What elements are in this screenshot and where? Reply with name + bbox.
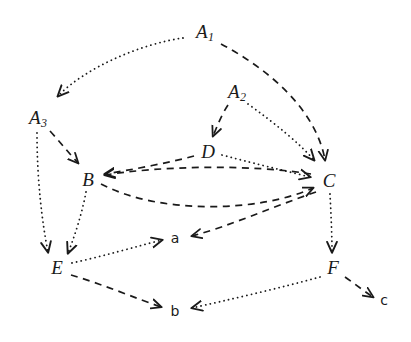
node-label-A2: A: [228, 81, 240, 102]
edge-A3-E: [37, 133, 48, 252]
node-label-D: D: [201, 141, 215, 162]
edge-D-C: [222, 155, 310, 177]
edge-C-B: [105, 167, 311, 175]
edge-C-F: [330, 194, 332, 252]
node-A2: A2: [228, 82, 246, 103]
edge-C-a: [192, 192, 316, 236]
node-subscript-A2: 2: [240, 91, 246, 105]
node-F: F: [327, 258, 339, 277]
node-label-a: a: [171, 230, 180, 246]
node-subscript-A3: 3: [41, 117, 47, 131]
node-C: C: [323, 171, 336, 190]
node-label-E: E: [51, 257, 63, 278]
node-label-B: B: [82, 169, 94, 190]
edge-E-b: [71, 275, 161, 307]
node-D: D: [201, 142, 215, 161]
node-label-A3: A: [29, 107, 41, 128]
node-a: a: [171, 231, 180, 245]
node-label-F: F: [327, 257, 339, 278]
edge-B-E: [68, 192, 86, 253]
edge-layer: [0, 0, 411, 342]
node-c: c: [380, 293, 388, 307]
edge-A3-B: [50, 131, 78, 163]
edge-F-c: [345, 277, 373, 297]
node-A3: A3: [29, 108, 47, 129]
edge-D-B: [105, 156, 194, 174]
diagram-canvas: A1A2A3BCDEFabc: [0, 0, 411, 342]
node-label-C: C: [323, 170, 336, 191]
node-label-c: c: [380, 292, 388, 308]
node-E: E: [51, 258, 63, 277]
edge-A2-C: [248, 104, 314, 160]
node-subscript-A1: 1: [208, 31, 214, 45]
edge-B-C: [101, 184, 313, 207]
node-label-A1: A: [196, 21, 208, 42]
node-label-b: b: [171, 303, 180, 319]
edge-E-a: [72, 240, 162, 263]
node-A1: A1: [196, 22, 214, 43]
edge-F-b: [192, 277, 320, 308]
edge-A2-D: [213, 105, 228, 136]
node-B: B: [82, 170, 94, 189]
node-b: b: [171, 304, 180, 318]
edge-A1-A3: [58, 38, 183, 96]
